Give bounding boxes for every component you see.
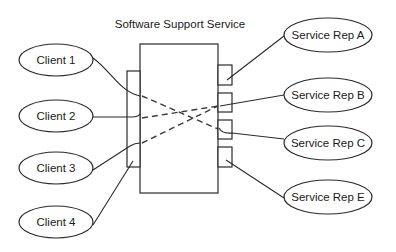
service-rep-label: Service Rep B: [291, 89, 365, 101]
service-rep-node-c: Service Rep C: [284, 126, 372, 160]
client-node-2: Client 2: [19, 100, 93, 132]
connector-rep-e: [226, 160, 284, 198]
diagram-title: Software Support Service: [115, 18, 245, 30]
right-port-a: [218, 65, 232, 85]
right-port-e: [218, 147, 232, 167]
connector-rep-a: [227, 36, 284, 80]
client-label: Client 4: [37, 216, 77, 228]
software-support-diagram: Software Support Service Client 1 Client…: [0, 0, 396, 252]
client-node-3: Client 3: [19, 152, 93, 184]
right-port-b: [218, 93, 232, 112]
service-rep-node-e: Service Rep E: [284, 180, 372, 214]
service-rep-label: Service Rep C: [291, 137, 365, 149]
service-rep-node-b: Service Rep B: [284, 78, 372, 112]
client-label: Client 1: [37, 54, 76, 66]
client-node-1: Client 1: [19, 44, 93, 76]
client-label: Client 2: [37, 110, 76, 122]
connector-client4: [93, 161, 133, 225]
client-node-4: Client 4: [19, 206, 93, 238]
service-rep-label: Service Rep E: [291, 191, 365, 203]
left-port: [127, 71, 140, 167]
service-rep-label: Service Rep A: [292, 29, 365, 41]
service-rep-node-a: Service Rep A: [284, 18, 372, 52]
service-box: [140, 44, 218, 193]
client-label: Client 3: [37, 162, 76, 174]
